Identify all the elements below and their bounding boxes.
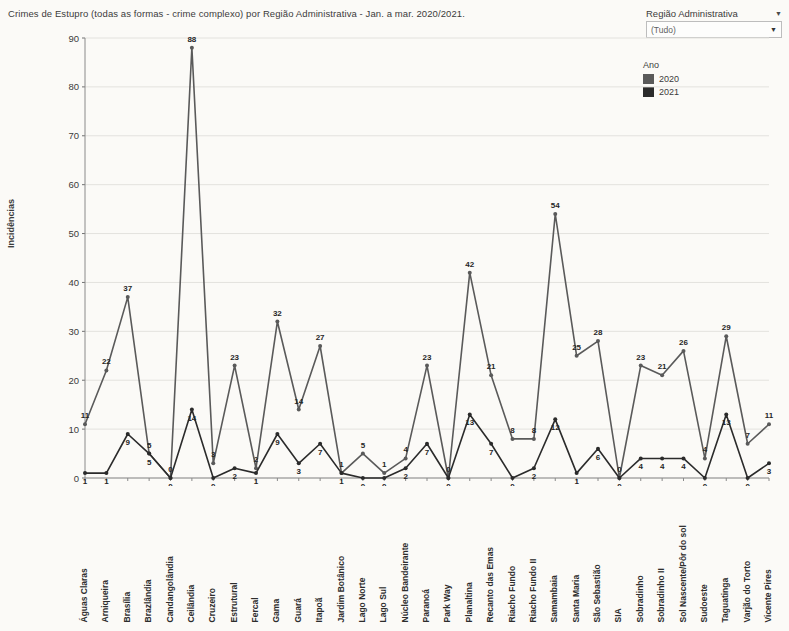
data-point[interactable]	[617, 476, 621, 480]
data-point-label: 2	[254, 455, 259, 464]
y-axis-tick: 70	[68, 130, 79, 141]
x-axis-label: Sudoeste	[699, 584, 708, 622]
data-point[interactable]	[532, 466, 536, 470]
data-point[interactable]	[553, 417, 557, 421]
data-point[interactable]	[639, 364, 643, 368]
data-point[interactable]	[553, 212, 557, 216]
data-point[interactable]	[596, 339, 600, 343]
y-axis-tick: 30	[68, 326, 79, 337]
data-point[interactable]	[489, 373, 493, 377]
data-point[interactable]	[682, 456, 686, 460]
data-point[interactable]	[746, 442, 750, 446]
data-point[interactable]	[468, 271, 472, 275]
data-point[interactable]	[361, 476, 365, 480]
data-point[interactable]	[382, 471, 386, 475]
data-point[interactable]	[660, 456, 664, 460]
region-filter-label: Região Administrativa	[646, 8, 738, 19]
data-point[interactable]	[724, 334, 728, 338]
data-point-label: 2	[232, 472, 237, 481]
data-point-label: 7	[425, 448, 430, 457]
data-point-label: 12	[551, 423, 560, 432]
data-point[interactable]	[425, 442, 429, 446]
data-point[interactable]	[489, 442, 493, 446]
data-point[interactable]	[126, 432, 130, 436]
data-point[interactable]	[275, 432, 279, 436]
data-point[interactable]	[639, 456, 643, 460]
x-axis-label: Ceilândia	[186, 584, 195, 622]
data-point[interactable]	[660, 373, 664, 377]
data-point-label: 32	[273, 309, 282, 318]
data-point[interactable]	[575, 471, 579, 475]
data-point[interactable]	[83, 471, 87, 475]
data-point[interactable]	[425, 364, 429, 368]
data-point[interactable]	[767, 422, 771, 426]
data-point[interactable]	[297, 461, 301, 465]
data-point[interactable]	[297, 408, 301, 412]
data-point[interactable]	[532, 437, 536, 441]
data-point[interactable]	[126, 295, 130, 299]
data-point[interactable]	[382, 476, 386, 480]
data-point[interactable]	[511, 437, 515, 441]
x-axis-label: Lago Norte	[357, 577, 366, 622]
data-point-label: 1	[339, 477, 344, 486]
data-point[interactable]	[275, 320, 279, 324]
data-point[interactable]	[575, 354, 579, 358]
chevron-down-icon[interactable]: ▼	[775, 10, 782, 17]
data-point-label: 0	[745, 482, 750, 486]
data-point[interactable]	[104, 471, 108, 475]
data-point[interactable]	[318, 442, 322, 446]
x-axis-label: Park Way	[443, 584, 452, 622]
line-chart-svg: 0102030405060708090112237508832323214271…	[55, 24, 775, 486]
data-point[interactable]	[446, 476, 450, 480]
data-point[interactable]	[254, 471, 258, 475]
data-point[interactable]	[746, 476, 750, 480]
data-point-label: 26	[679, 338, 688, 347]
data-point-label: 4	[403, 445, 408, 454]
data-point-label: 27	[316, 333, 325, 342]
data-point-label: 42	[465, 260, 474, 269]
y-axis-tick: 50	[68, 228, 79, 239]
data-point[interactable]	[724, 412, 728, 416]
data-point[interactable]	[169, 476, 173, 480]
data-point[interactable]	[404, 456, 408, 460]
data-point[interactable]	[83, 422, 87, 426]
data-point[interactable]	[318, 344, 322, 348]
data-point-label: 14	[187, 414, 196, 423]
data-point[interactable]	[104, 368, 108, 372]
data-point[interactable]	[703, 476, 707, 480]
data-point-label: 1	[254, 477, 259, 486]
data-point-label: 7	[745, 431, 750, 440]
data-point[interactable]	[703, 456, 707, 460]
data-point-label: 1	[382, 460, 387, 469]
data-point[interactable]	[190, 408, 194, 412]
x-axis-label: Águas Claras	[80, 568, 89, 622]
data-point-label: 23	[423, 353, 432, 362]
data-point-label: 0	[617, 465, 622, 474]
data-point[interactable]	[340, 471, 344, 475]
x-axis-label: Lago Sul	[379, 586, 388, 622]
chart-page: Crimes de Estupro (todas as formas - cri…	[0, 0, 789, 631]
data-point[interactable]	[404, 466, 408, 470]
data-point-label: 9	[275, 438, 280, 447]
data-point[interactable]	[147, 452, 151, 456]
data-point[interactable]	[511, 476, 515, 480]
data-point[interactable]	[233, 466, 237, 470]
region-filter-label-row: Região Administrativa ▼	[646, 8, 782, 21]
data-point[interactable]	[211, 461, 215, 465]
data-point[interactable]	[190, 46, 194, 50]
data-point-label: 37	[123, 284, 132, 293]
data-point-label: 25	[572, 343, 581, 352]
data-point-label: 3	[211, 450, 216, 459]
data-point[interactable]	[682, 349, 686, 353]
x-axis-label: Samambaia	[550, 575, 559, 622]
data-point[interactable]	[468, 412, 472, 416]
data-point[interactable]	[233, 364, 237, 368]
x-axis-label: SIA	[614, 608, 623, 622]
data-point[interactable]	[767, 461, 771, 465]
data-point-label: 7	[489, 448, 494, 457]
data-point[interactable]	[596, 447, 600, 451]
data-point[interactable]	[211, 476, 215, 480]
x-axis-label: Candangolândia	[165, 556, 174, 622]
data-point[interactable]	[361, 452, 365, 456]
data-point-label: 1	[574, 477, 579, 486]
